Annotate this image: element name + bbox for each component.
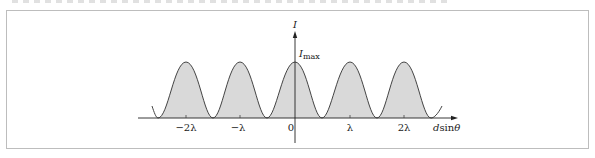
intensity-fill [158, 62, 431, 118]
tick-label-pos1: λ [347, 122, 354, 133]
y-axis-label: I [292, 19, 298, 30]
tick-label-neg2: −2λ [175, 122, 197, 133]
imax-label: Imax [298, 48, 320, 61]
tick-label-neg1: −λ [231, 122, 246, 133]
x-axis-label: dsinθ [433, 122, 460, 133]
x-axis-arrow-icon [451, 116, 458, 120]
interference-plot: −2λ −λ 0 λ 2λ dsinθ I Imax [0, 0, 595, 158]
tick-label-zero: 0 [288, 122, 294, 133]
x-axis-label-theta: θ [454, 122, 460, 133]
tick-label-pos2: 2λ [398, 122, 411, 133]
imax-label-sub: max [303, 52, 320, 61]
y-axis-arrow-icon [293, 31, 297, 38]
x-axis-label-sin: sin [439, 122, 454, 133]
